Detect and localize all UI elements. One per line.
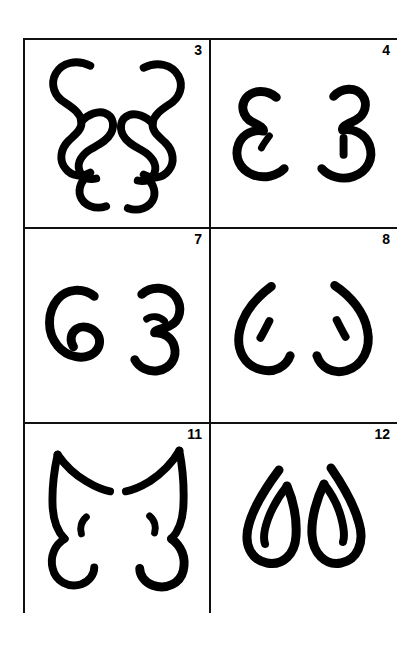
glyph-pair-7 [25,229,209,422]
panel-12: 12 [211,424,397,613]
panel-8: 8 [211,229,397,424]
glyph-teardrop-leaf-left [247,470,296,563]
glyph-g-curl-left [49,290,99,357]
glyph-three-curl-right [135,288,180,371]
glyph-xi-angular-left [52,455,110,586]
glyph-three-with-tick-right [322,89,371,178]
glyph-teardrop-leaf-right [312,468,361,563]
glyph-pair-3 [25,40,209,227]
panel-4: 4 [211,40,397,229]
glyph-epsilon-double-loop-right [121,64,181,209]
glyph-epsilon-double-loop-left [53,62,113,207]
glyph-pair-11 [25,424,209,613]
panel-grid: 3 4 [23,38,397,613]
figure-plate: 3 4 [0,0,418,649]
glyph-xi-angular-right [126,451,184,587]
glyph-crescent-with-tick-right [317,285,368,371]
glyph-pair-8 [211,229,397,422]
panel-11: 11 [25,424,211,613]
glyph-pair-12 [211,424,397,613]
panel-3: 3 [25,40,211,229]
glyph-epsilon-with-tick-left [237,91,284,176]
panel-7: 7 [25,229,211,424]
glyph-pair-4 [211,40,397,227]
glyph-crescent-with-tick-left [239,286,290,370]
